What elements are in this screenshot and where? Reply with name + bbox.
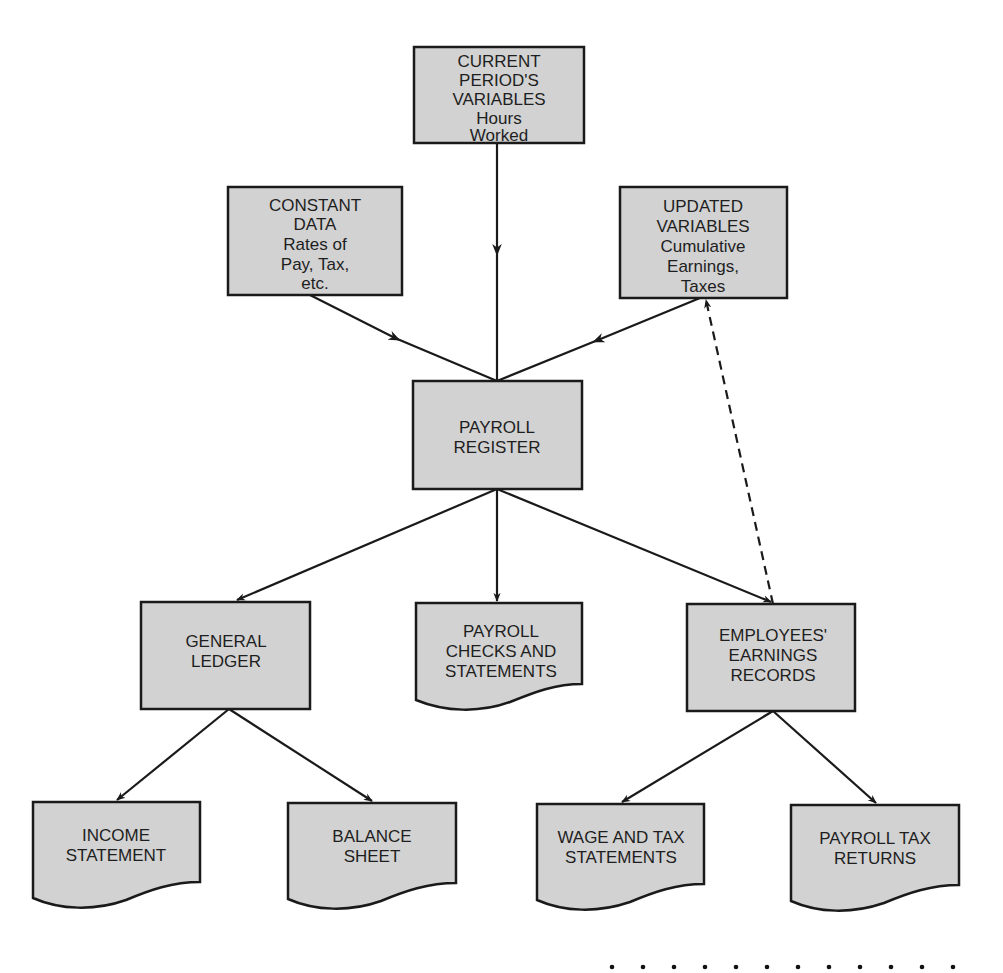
node-constant-data: CONSTANT DATA Rates of Pay, Tax, etc. [228,187,402,295]
node-employees-earnings-records: EMPLOYEES' EARNINGS RECORDS [687,604,855,711]
node-label: LEDGER [191,652,261,671]
node-label: SHEET [344,847,401,866]
node-payroll-checks-statements: PAYROLL CHECKS AND STATEMENTS [416,603,582,710]
edge-ledger-to-income [117,709,229,800]
node-income-statement: INCOME STATEMENT [33,802,200,908]
node-label: CHECKS AND [446,642,557,661]
node-label: STATEMENTS [565,848,677,867]
payroll-flowchart: CURRENT PERIOD'S VARIABLES Hours Worked … [0,0,1003,973]
node-label: PAYROLL [463,622,539,641]
node-label: Worked [470,126,528,145]
edge-register-to-ledger [237,489,497,600]
node-label: CONSTANT [269,196,361,215]
node-label: BALANCE [332,827,411,846]
node-updated-variables: UPDATED VARIABLES Cumulative Earnings, T… [620,187,787,298]
node-label: VARIABLES [656,217,749,236]
node-label: STATEMENT [66,846,166,865]
edge-constant-to-register [310,295,497,381]
node-current-period-variables: CURRENT PERIOD'S VARIABLES Hours Worked [414,47,584,145]
node-label: Rates of [283,235,347,254]
node-label: GENERAL [185,632,266,651]
edge-register-to-earnings [497,489,771,602]
node-label: DATA [294,215,337,234]
node-label: etc. [301,274,328,293]
node-label: EMPLOYEES' [719,626,827,645]
node-wage-tax-statements: WAGE AND TAX STATEMENTS [537,804,704,910]
node-label: Earnings, [667,257,739,276]
edge-earnings-to-updated [706,300,773,604]
edge-earnings-to-returns [773,711,876,803]
edge-earnings-to-wage [622,711,773,802]
node-label: PAYROLL TAX [819,829,931,848]
node-label: UPDATED [663,197,743,216]
node-label: PAYROLL [459,418,535,437]
node-label: Cumulative [660,237,745,256]
node-label: EARNINGS [729,646,818,665]
node-label: RECORDS [730,666,815,685]
node-label: CURRENT [457,52,540,71]
node-label: REGISTER [454,438,541,457]
footer-dot-leader [610,965,956,970]
node-label: PERIOD'S [459,71,539,90]
node-general-ledger: GENERAL LEDGER [141,602,310,709]
node-label: RETURNS [834,849,916,868]
edge-updated-to-register [497,298,700,381]
edge-ledger-to-balance [229,709,372,801]
node-label: INCOME [82,826,150,845]
node-label: Taxes [681,277,725,296]
node-balance-sheet: BALANCE SHEET [288,803,456,909]
node-label: WAGE AND TAX [557,828,684,847]
node-label: Pay, Tax, [281,255,349,274]
node-payroll-tax-returns: PAYROLL TAX RETURNS [791,805,959,911]
node-label: STATEMENTS [445,662,557,681]
node-label: VARIABLES [452,90,545,109]
node-payroll-register: PAYROLL REGISTER [413,381,582,489]
